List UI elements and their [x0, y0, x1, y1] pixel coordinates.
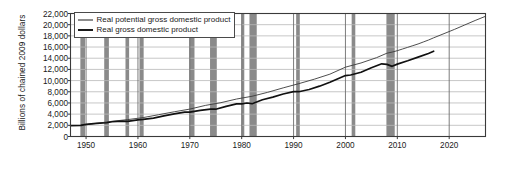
chart-legend: Real potential gross domestic product Re…	[74, 12, 236, 38]
legend-item-real-gdp: Real gross domestic product	[78, 25, 231, 35]
x-tick-label: 1990	[284, 141, 302, 150]
legend-item-potential-gdp: Real potential gross domestic product	[78, 15, 231, 25]
legend-label-potential-gdp: Real potential gross domestic product	[97, 15, 231, 25]
x-tick-label: 2020	[440, 141, 458, 150]
x-tick-label: 1980	[233, 141, 251, 150]
x-tick-label: 2000	[336, 141, 354, 150]
x-tick-label: 1970	[181, 141, 199, 150]
x-tick-label: 1960	[129, 141, 147, 150]
x-tick-label: 2010	[388, 141, 406, 150]
legend-label-real-gdp: Real gross domestic product	[97, 25, 198, 35]
x-tick-label: 1950	[77, 141, 95, 150]
